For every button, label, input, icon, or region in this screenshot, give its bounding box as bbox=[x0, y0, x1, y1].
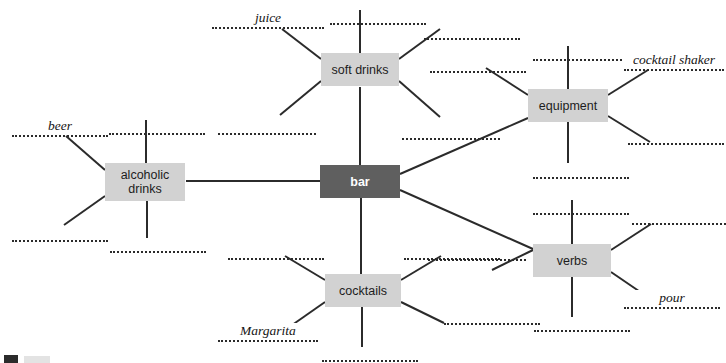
blank-label-juice: juice bbox=[212, 10, 324, 26]
blank-alcoholic-ll[interactable] bbox=[12, 225, 108, 242]
blank-softdrinks-lr[interactable] bbox=[402, 123, 500, 140]
blank-verbs-top[interactable] bbox=[533, 198, 629, 215]
blank-beer[interactable]: beer bbox=[12, 120, 108, 137]
page-corner-mark-2 bbox=[24, 356, 50, 363]
node-equipment[interactable]: equipment bbox=[528, 89, 608, 122]
blank-alcoholic-bot[interactable] bbox=[110, 236, 206, 253]
blank-label-beer: beer bbox=[12, 118, 108, 134]
blank-cocktail-shaker[interactable]: cocktail shaker bbox=[624, 54, 724, 71]
blank-label-cocktail-shaker: cocktail shaker bbox=[624, 52, 724, 68]
node-cocktails[interactable]: cocktails bbox=[325, 274, 401, 307]
spoke-alcoholic-beer bbox=[66, 136, 105, 170]
node-verbs[interactable]: verbs bbox=[533, 244, 611, 277]
blank-label-pour: pour bbox=[624, 290, 720, 306]
blank-softdrinks-ur[interactable] bbox=[424, 23, 520, 40]
blank-label-margarita: Margarita bbox=[218, 323, 318, 339]
page-corner-mark bbox=[4, 355, 18, 363]
blank-alcoholic-top[interactable] bbox=[109, 118, 205, 135]
spoke-softdrinks-ll bbox=[280, 81, 321, 115]
spoke-verbs-ur bbox=[611, 224, 651, 250]
blank-cocktails-ul[interactable] bbox=[228, 243, 324, 260]
blank-equipment-lr[interactable] bbox=[628, 128, 724, 145]
blank-softdrinks-ll[interactable] bbox=[218, 118, 316, 135]
spoke-alcoholic-ll bbox=[64, 196, 105, 225]
blank-margarita[interactable]: Margarita bbox=[218, 325, 318, 342]
blank-equipment-ul[interactable] bbox=[430, 56, 526, 73]
node-bar[interactable]: bar bbox=[320, 165, 400, 198]
blank-softdrinks-top[interactable] bbox=[330, 8, 426, 25]
spoke-cocktails-re bbox=[401, 302, 444, 323]
blank-verbs-bot[interactable] bbox=[534, 315, 630, 332]
link-bar-verbs bbox=[400, 190, 533, 249]
blank-verbs-ul[interactable] bbox=[428, 244, 526, 261]
node-soft-drinks[interactable]: soft drinks bbox=[321, 53, 399, 86]
blank-cocktails-bot[interactable] bbox=[322, 345, 418, 362]
spoke-softdrinks-juice bbox=[282, 29, 321, 59]
blank-verbs-ur[interactable] bbox=[632, 208, 726, 225]
spoke-equipment-shaker bbox=[608, 70, 648, 95]
blank-cocktails-re[interactable] bbox=[444, 308, 540, 325]
blank-equipment-top[interactable] bbox=[533, 44, 629, 61]
spoke-softdrinks-lr bbox=[399, 81, 440, 117]
blank-pour[interactable]: pour bbox=[624, 292, 720, 309]
node-alcoholic-drinks[interactable]: alcoholic drinks bbox=[105, 163, 185, 201]
blank-juice[interactable]: juice bbox=[212, 12, 324, 29]
blank-equipment-bot[interactable] bbox=[533, 162, 629, 179]
mind-map-diagram: bar soft drinks alcoholic drinks equipme… bbox=[0, 0, 726, 363]
